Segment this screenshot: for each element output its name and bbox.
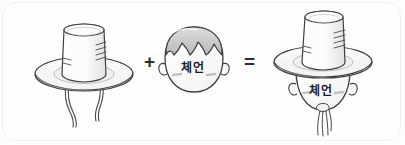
illustration-canvas: + = 체언 체언 — [0, 0, 405, 145]
result-blush-right — [335, 92, 343, 93]
plus-operator: + — [144, 52, 155, 71]
term-gat-hat — [35, 24, 133, 127]
equals-operator: = — [244, 52, 255, 71]
result-ear-right — [349, 83, 357, 95]
result-ear-left — [289, 83, 297, 95]
result-strap-ribbons — [318, 110, 332, 136]
result-label-cheeon: 체언 — [309, 81, 332, 98]
crown-cylinder — [62, 24, 106, 82]
result-strap-knot — [317, 104, 330, 112]
term-face-wearing-hat — [274, 11, 372, 136]
face-label-cheeon: 체언 — [181, 58, 204, 75]
blush-right — [207, 74, 215, 75]
blush-left — [173, 74, 181, 75]
result-crown-cylinder — [302, 11, 345, 70]
